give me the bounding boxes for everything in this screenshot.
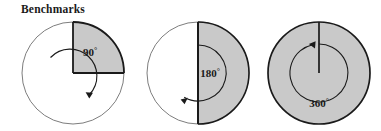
- benchmark-figure-180: 180°: [142, 18, 255, 131]
- half-turn-diagram: 180°: [142, 18, 255, 131]
- angle-label-90: 90: [83, 46, 95, 58]
- benchmarks-figure-panel: Benchmarks 90°: [0, 0, 381, 131]
- angle-label-180: 180: [200, 67, 217, 79]
- benchmark-figure-90: 90°: [16, 18, 131, 131]
- benchmark-figure-360: 360°: [262, 18, 377, 131]
- full-turn-diagram: 360°: [262, 18, 377, 131]
- degree-symbol-180: °: [217, 67, 220, 76]
- quarter-turn-diagram: 90°: [16, 18, 131, 131]
- angle-label-360: 360: [309, 97, 326, 109]
- degree-symbol-90: °: [94, 46, 97, 55]
- degree-symbol-360: °: [326, 97, 329, 106]
- page-title: Benchmarks: [21, 3, 85, 15]
